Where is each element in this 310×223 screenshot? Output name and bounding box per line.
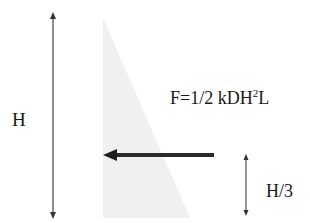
force-formula-label: F=1/2 kDH2L (170, 89, 269, 107)
h3-dimension-arrow (244, 154, 249, 216)
force-formula-suffix: L (258, 88, 269, 108)
hydrostatic-diagram: H F=1/2 kDH2L H/3 (0, 0, 310, 223)
application-height-label: H/3 (266, 182, 293, 200)
height-label: H (12, 110, 26, 129)
height-dimension-arrow (50, 12, 56, 219)
force-formula-main: F=1/2 kDH (170, 88, 253, 108)
diagram-graphics (0, 0, 310, 223)
pressure-triangle (103, 18, 190, 218)
